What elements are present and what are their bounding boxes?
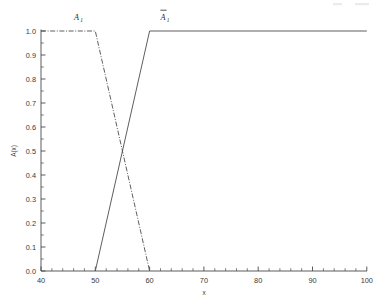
- curve-label-a1c-subscript: 1: [167, 17, 170, 23]
- x-tick-label: 100: [361, 276, 373, 285]
- x-tick-label: 60: [145, 276, 153, 285]
- x-tick-label: 50: [91, 276, 99, 285]
- y-tick-label: 0.5: [26, 147, 36, 156]
- x-tick-label: 80: [254, 276, 262, 285]
- y-tick-label: 0.6: [26, 123, 36, 132]
- x-tick-label: 90: [308, 276, 316, 285]
- plot-axes: [41, 30, 367, 272]
- y-tick-label: 0.2: [26, 219, 36, 228]
- curve-label-a1-subscript: 1: [80, 17, 83, 23]
- membership-function-chart: 0.0 0.1 0.2 0.3 0.4 0.5 0.6 0.7 0.8 0.9 …: [0, 0, 387, 306]
- scan-bleed-artifacts: [333, 3, 369, 5]
- y-tick-label: 0.7: [26, 99, 36, 108]
- x-axis-title: x: [202, 289, 206, 296]
- curve-label-a1-base: A: [73, 13, 80, 22]
- y-axis-title: A(x): [10, 145, 18, 157]
- curve-label-a1c-base: A: [160, 13, 167, 22]
- curve-label-a1-complement: A 1: [160, 10, 170, 23]
- x-tick-label: 70: [200, 276, 208, 285]
- series-line-a1-complement: [95, 31, 367, 271]
- x-axis-tick-labels: 40 50 60 70 80 90 100: [37, 276, 373, 285]
- y-tick-label: 0.8: [26, 75, 36, 84]
- curve-label-a1: A 1: [73, 13, 83, 23]
- y-tick-label: 1.0: [26, 27, 36, 36]
- x-axis-ticks: [41, 267, 367, 272]
- y-tick-label: 0.4: [26, 171, 36, 180]
- y-tick-label: 0.9: [26, 51, 36, 60]
- series-line-a1: [41, 31, 150, 271]
- x-tick-label: 40: [37, 276, 45, 285]
- y-axis-tick-labels: 0.0 0.1 0.2 0.3 0.4 0.5 0.6 0.7 0.8 0.9 …: [26, 27, 36, 276]
- y-tick-label: 0.3: [26, 195, 36, 204]
- y-tick-label: 0.1: [26, 243, 36, 252]
- y-axis-ticks: [41, 31, 46, 271]
- y-tick-label: 0.0: [26, 267, 36, 276]
